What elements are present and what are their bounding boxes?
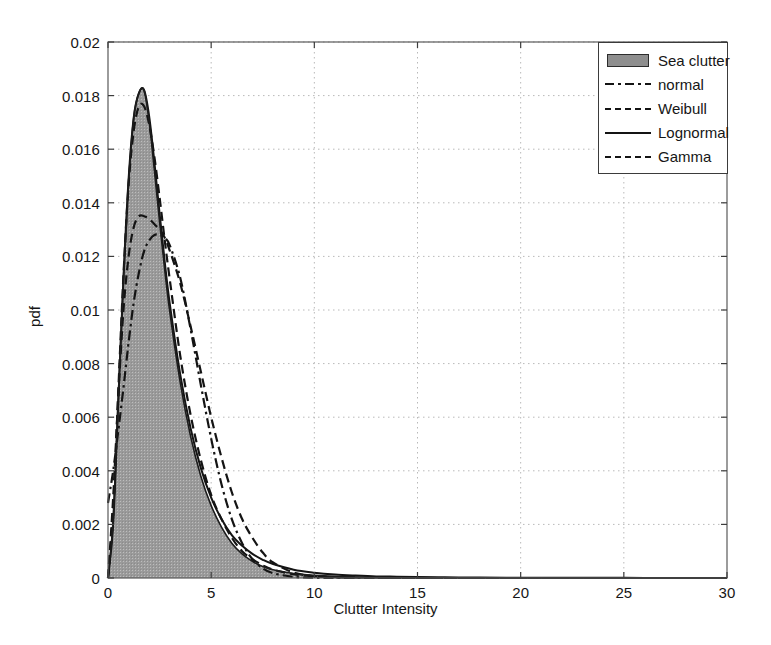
x-axis-title: Clutter Intensity (0, 600, 771, 617)
legend-label: Gamma (658, 149, 711, 164)
legend-line-dashed (605, 108, 651, 110)
legend-item[interactable]: Sea clutter (605, 48, 720, 72)
legend-item[interactable]: Gamma (605, 144, 720, 168)
y-tick-label: 0.01 (0, 302, 100, 319)
x-tick-label: 10 (306, 584, 323, 601)
legend-line-solid (605, 132, 651, 134)
legend-line-sample (605, 146, 651, 166)
y-tick-label: 0.014 (0, 194, 100, 211)
x-tick-label: 0 (104, 584, 112, 601)
y-axis-title: pdf (26, 277, 43, 357)
legend-swatch-patch (605, 50, 651, 70)
x-tick-label: 20 (512, 584, 529, 601)
legend-item[interactable]: normal (605, 72, 720, 96)
legend-item[interactable]: Weibull (605, 96, 720, 120)
y-tick-label: 0.008 (0, 355, 100, 372)
x-tick-label: 30 (719, 584, 736, 601)
legend-line-sample (605, 122, 651, 142)
y-tick-label: 0.012 (0, 248, 100, 265)
legend-label: Weibull (658, 101, 707, 116)
legend-line-sample (605, 74, 651, 94)
legend-line-sample (605, 98, 651, 118)
legend-label: Lognormal (658, 125, 729, 140)
sea-clutter-swatch (607, 54, 649, 67)
y-tick-label: 0.02 (0, 34, 100, 51)
legend-line-dashdot (605, 83, 651, 85)
legend-item[interactable]: Lognormal (605, 120, 720, 144)
legend-label: normal (658, 77, 704, 92)
x-tick-label: 5 (207, 584, 215, 601)
legend-line-dashed (605, 156, 651, 158)
legend-label: Sea clutter (658, 53, 730, 68)
legend-box: Sea clutternormalWeibullLognormalGamma (598, 42, 728, 174)
y-tick-label: 0.006 (0, 409, 100, 426)
y-tick-label: 0.004 (0, 462, 100, 479)
x-tick-label: 25 (615, 584, 632, 601)
figure-canvas: 00.0020.0040.0060.0080.010.0120.0140.016… (0, 0, 771, 645)
y-tick-label: 0.018 (0, 87, 100, 104)
x-tick-label: 15 (409, 584, 426, 601)
y-tick-label: 0 (0, 570, 100, 587)
y-tick-label: 0.002 (0, 516, 100, 533)
y-tick-label: 0.016 (0, 141, 100, 158)
